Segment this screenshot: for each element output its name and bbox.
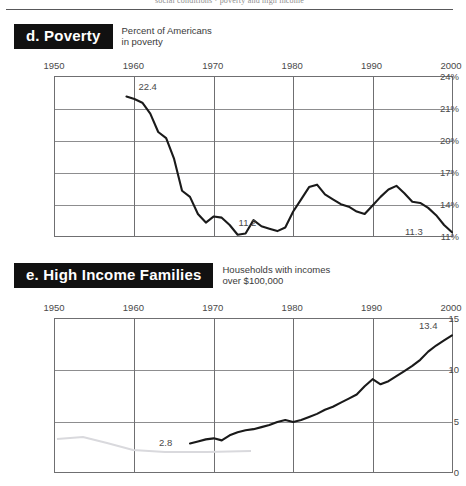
y-axis-tick-label: 5 — [409, 415, 459, 426]
series-canvas — [55, 319, 452, 472]
plot-area — [54, 318, 453, 473]
data-point-label: 13.4 — [419, 320, 438, 331]
data-point-label: 2.8 — [159, 437, 172, 448]
y-axis-tick-label: 10 — [409, 364, 459, 375]
x-axis-tick-label: 1970 — [202, 302, 223, 313]
y-axis-tick-label: 0 — [409, 467, 459, 478]
x-axis-tick-label: 1950 — [43, 302, 64, 313]
x-axis-tick-label: 2000 — [440, 302, 461, 313]
x-axis-tick-label: 1990 — [361, 302, 382, 313]
data-series-line — [190, 335, 452, 443]
x-axis-tick-label: 1980 — [282, 302, 303, 313]
x-axis-tick-label: 1960 — [123, 302, 144, 313]
